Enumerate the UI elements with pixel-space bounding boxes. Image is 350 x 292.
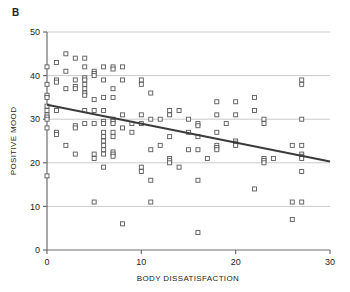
- data-point: [102, 122, 106, 126]
- data-point: [54, 108, 58, 112]
- figure-panel-b: B 010203040500102030 BODY DISSATISFACTIO…: [0, 0, 350, 292]
- y-tick-label-40: 40: [30, 71, 40, 81]
- data-point: [102, 130, 106, 134]
- data-point: [92, 156, 96, 160]
- data-point: [139, 113, 143, 117]
- data-point: [92, 98, 96, 102]
- data-point: [177, 108, 181, 112]
- data-point: [45, 126, 49, 130]
- data-point: [300, 78, 304, 82]
- data-point: [73, 152, 77, 156]
- data-point: [205, 156, 209, 160]
- data-point: [215, 113, 219, 117]
- data-point: [64, 52, 68, 56]
- data-point: [168, 108, 172, 112]
- data-point: [158, 143, 162, 147]
- data-point: [54, 80, 58, 84]
- data-point: [215, 148, 219, 152]
- data-point: [149, 148, 153, 152]
- data-point: [102, 95, 106, 99]
- data-point: [111, 130, 115, 134]
- data-point: [83, 65, 87, 69]
- data-point: [111, 122, 115, 126]
- tick-labels: 010203040500102030: [30, 27, 335, 267]
- y-tick-label-30: 30: [30, 114, 40, 124]
- data-point: [102, 78, 106, 82]
- data-point: [64, 143, 68, 147]
- data-point: [102, 165, 106, 169]
- data-point: [196, 231, 200, 235]
- data-point: [158, 117, 162, 121]
- data-point: [102, 65, 106, 69]
- data-point: [234, 113, 238, 117]
- data-point: [92, 200, 96, 204]
- data-point: [54, 132, 58, 136]
- data-point: [300, 200, 304, 204]
- data-point: [83, 82, 87, 86]
- data-point: [73, 87, 77, 91]
- data-point: [177, 165, 181, 169]
- data-point: [45, 95, 49, 99]
- data-point: [102, 139, 106, 143]
- data-point: [45, 65, 49, 69]
- data-point: [139, 165, 143, 169]
- data-point: [92, 108, 96, 112]
- data-point: [262, 161, 266, 165]
- data-point: [120, 113, 124, 117]
- data-point: [149, 91, 153, 95]
- axes: [47, 32, 330, 250]
- data-point: [149, 200, 153, 204]
- data-point: [149, 117, 153, 121]
- data-point: [73, 78, 77, 82]
- data-point: [187, 148, 191, 152]
- data-point: [64, 87, 68, 91]
- data-point: [102, 135, 106, 139]
- data-point: [139, 82, 143, 86]
- x-axis-title: BODY DISSATISFACTION: [137, 274, 239, 283]
- data-point: [120, 65, 124, 69]
- data-point: [300, 170, 304, 174]
- data-point: [196, 124, 200, 128]
- data-point: [92, 74, 96, 78]
- data-point: [234, 100, 238, 104]
- data-point: [102, 143, 106, 147]
- data-point: [83, 78, 87, 82]
- data-point: [300, 143, 304, 147]
- data-point: [168, 113, 172, 117]
- data-point: [73, 126, 77, 130]
- x-tick-label-30: 30: [325, 257, 335, 267]
- data-point: [120, 78, 124, 82]
- data-point: [83, 87, 87, 91]
- trendline: [47, 105, 330, 162]
- data-point: [253, 108, 257, 112]
- data-point: [215, 100, 219, 104]
- data-point: [262, 117, 266, 121]
- data-point: [45, 82, 49, 86]
- data-point: [196, 148, 200, 152]
- data-point: [139, 170, 143, 174]
- data-point: [139, 78, 143, 82]
- regression-line: [47, 105, 330, 162]
- x-tick-label-10: 10: [136, 257, 146, 267]
- data-point: [196, 178, 200, 182]
- data-point: [120, 222, 124, 226]
- data-point: [111, 95, 115, 99]
- data-point: [54, 61, 58, 65]
- data-point: [215, 130, 219, 134]
- scatter-plot: 010203040500102030 BODY DISSATISFACTION …: [0, 0, 350, 292]
- y-tick-label-10: 10: [30, 202, 40, 212]
- y-tick-label-20: 20: [30, 158, 40, 168]
- data-point: [102, 108, 106, 112]
- data-point: [111, 87, 115, 91]
- y-tick-label-50: 50: [30, 27, 40, 37]
- y-axis-title: POSITIVE MOOD: [9, 107, 18, 176]
- data-point: [83, 93, 87, 97]
- data-point: [290, 200, 294, 204]
- data-point: [234, 143, 238, 147]
- data-point: [92, 122, 96, 126]
- data-point: [262, 122, 266, 126]
- data-point: [290, 217, 294, 221]
- data-point: [224, 122, 228, 126]
- x-tick-label-20: 20: [231, 257, 241, 267]
- data-point: [45, 117, 49, 121]
